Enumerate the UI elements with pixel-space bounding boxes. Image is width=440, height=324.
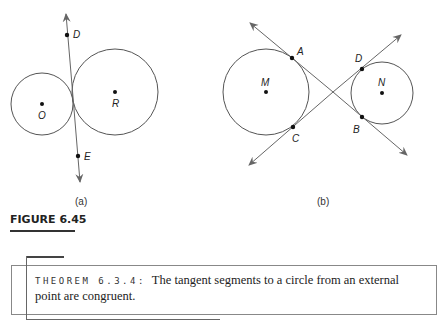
point-e — [76, 154, 80, 158]
tangent-line-cd-down — [249, 92, 333, 165]
center-o — [40, 102, 44, 106]
subfigure-b-label: (b) — [317, 196, 329, 207]
label-e: E — [84, 151, 91, 162]
point-a — [290, 56, 294, 60]
label-c: C — [292, 133, 300, 144]
point-b — [360, 115, 364, 119]
point-c — [291, 125, 295, 129]
label-m: M — [261, 77, 270, 88]
label-r: R — [112, 98, 119, 109]
label-a: A — [296, 46, 304, 57]
point-d — [65, 33, 69, 37]
label-d-b: D — [355, 53, 362, 64]
center-n — [380, 91, 384, 95]
label-o: O — [38, 110, 46, 121]
tangent-line-de-lower — [73, 97, 80, 182]
theorem-accent-top — [26, 256, 64, 258]
subfigure-b: A C D B M N — [223, 23, 413, 165]
label-d: D — [73, 29, 80, 40]
tangent-line-de — [66, 14, 73, 97]
subfigure-a: D E O R — [11, 14, 158, 182]
theorem-accent-bottom — [26, 319, 220, 320]
caption-underline — [10, 230, 75, 232]
theorem-accent-left — [26, 256, 27, 320]
subfigure-a-label: (a) — [75, 196, 87, 207]
center-r — [113, 90, 117, 94]
label-n: N — [378, 77, 386, 88]
figure-caption: FIGURE 6.45 — [10, 213, 87, 226]
label-b: B — [353, 124, 360, 135]
point-d-b — [360, 67, 364, 71]
tangent-line-ab-down — [333, 92, 407, 155]
center-m — [264, 90, 268, 94]
theorem-statement: THEOREM 6.3.4:The tangent segments to a … — [35, 273, 425, 304]
theorem-label: THEOREM 6.3.4: — [35, 276, 146, 286]
